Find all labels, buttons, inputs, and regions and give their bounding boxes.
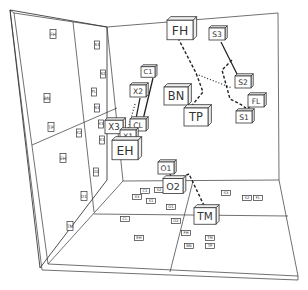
projection-label: S3 — [94, 41, 100, 49]
projection-text: X2 — [156, 187, 162, 192]
cube-label: X3 — [108, 122, 119, 132]
projection-label: TM — [66, 222, 74, 231]
projection-label: O2 — [93, 168, 99, 176]
projection-label: FL — [92, 88, 98, 96]
cube-label: S1 — [239, 113, 249, 122]
cube-tp: TP — [184, 105, 211, 126]
room-diagram: FHBNTPEHO1TM S3S2FLS1X2X3X1CLO2 C1X2X3X1… — [0, 0, 308, 290]
cube-o1: O1 — [158, 160, 176, 174]
cube-eh: EH — [112, 137, 142, 160]
projection-label: FL — [254, 195, 263, 200]
projection-label: BN — [44, 94, 50, 103]
cube-label: S3 — [212, 30, 222, 39]
cube-label: C1 — [144, 68, 153, 76]
projection-text: FH — [50, 32, 56, 37]
projection-text: BN — [186, 243, 192, 248]
projection-text: S3 — [94, 42, 100, 47]
cube-fl: FL — [248, 93, 266, 107]
projection-label: CL — [121, 216, 130, 221]
projection-label: TM — [206, 235, 215, 240]
projection-text: TM — [66, 224, 74, 229]
projection-label: O1 — [167, 204, 176, 209]
cube-tm: TM — [194, 205, 219, 225]
cubes: FHS3C1X2BNS2FLS1TPX3CLX1EHO1O2TM — [105, 17, 266, 225]
cube-s2: S2 — [235, 74, 253, 88]
projection-text: X3 — [134, 194, 140, 199]
cube-label: EH — [116, 144, 133, 158]
cube-c1: C1 — [141, 65, 157, 78]
cube-fh: FH — [167, 17, 197, 40]
projection-text: O1 — [168, 204, 174, 209]
projection-text: EH — [136, 235, 141, 240]
cube-label: O2 — [166, 181, 180, 192]
projection-label: S2 — [100, 70, 106, 78]
cube-label: TM — [196, 210, 212, 222]
cube-label: TP — [188, 110, 203, 124]
cube-label: FH — [172, 24, 188, 38]
projection-text: O2 — [173, 218, 179, 223]
projection-label: C1 — [141, 188, 150, 193]
cube-s3: S3 — [209, 26, 227, 40]
cube-bn: BN — [164, 84, 191, 105]
projection-text: X2 — [76, 130, 82, 135]
projection-label: X2 — [155, 187, 164, 192]
projection-text: S2 — [100, 71, 106, 76]
cube-label: O1 — [161, 164, 172, 173]
projection-label: FH — [50, 30, 56, 39]
cube-o2: O2 — [163, 176, 186, 194]
cube-label: FL — [252, 97, 261, 106]
projection-text: FH — [183, 230, 188, 235]
projection-text: S1 — [94, 105, 100, 110]
projection-label: EH — [60, 154, 66, 163]
projection-label: TP — [47, 123, 54, 132]
projection-text: TP — [207, 243, 213, 248]
cube-s1: S1 — [236, 109, 254, 123]
projection-label: FH — [182, 230, 191, 235]
projection-label: O1 — [81, 192, 88, 201]
projection-text: X1 — [148, 198, 154, 203]
cube-label: BN — [168, 89, 184, 103]
projection-text: TM — [206, 235, 213, 240]
projection-text: BN — [44, 96, 50, 101]
projection-label: S2 — [243, 195, 252, 200]
projection-label: X1 — [147, 198, 156, 203]
projection-text: X1 — [99, 137, 105, 142]
projection-label: BN — [185, 243, 194, 248]
projection-label: TP — [206, 243, 215, 248]
projection-text: O1 — [81, 194, 88, 199]
projection-label: S1 — [94, 104, 100, 112]
projection-text: O2 — [93, 169, 99, 174]
cube-label: S2 — [238, 78, 248, 87]
projection-label: EH — [135, 235, 144, 240]
projection-text: S2 — [245, 195, 250, 200]
projection-text: EH — [60, 156, 66, 161]
projection-text: S3 — [224, 190, 229, 195]
projection-label: X2 — [76, 129, 82, 137]
cube-label: X2 — [133, 87, 143, 96]
projection-text: TP — [47, 125, 54, 130]
projection-text: FL — [92, 89, 97, 94]
projection-text: X3 — [98, 121, 104, 126]
room-walls — [10, 10, 298, 280]
projection-label: S3 — [222, 190, 231, 195]
projection-label: X3 — [133, 194, 142, 199]
floor-projections: C1X2X3X1O1CLO2EHFHBNTPTMS3S2FL — [121, 187, 263, 248]
projection-text: C1 — [142, 188, 148, 193]
cube-x2: X2 — [130, 83, 148, 97]
projection-label: X1 — [99, 136, 105, 144]
projection-label: X3 — [98, 120, 104, 128]
projection-label: O2 — [172, 218, 181, 223]
diagram-canvas: FHBNTPEHO1TM S3S2FLS1X2X3X1CLO2 C1X2X3X1… — [0, 0, 308, 290]
